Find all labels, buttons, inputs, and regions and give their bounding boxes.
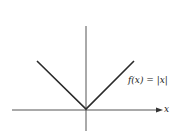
graph-canvas — [0, 0, 179, 132]
x-axis-label: x — [164, 104, 169, 114]
absolute-value-graph: f(x) = |x| x — [0, 0, 179, 132]
x-axis-arrow-icon — [156, 108, 163, 113]
function-label: f(x) = |x| — [128, 75, 168, 85]
